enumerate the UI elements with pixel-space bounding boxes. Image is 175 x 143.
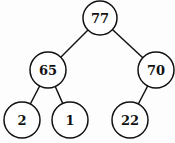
node-77: 77 (83, 1, 117, 35)
node-1: 1 (52, 102, 88, 138)
node-65: 65 (30, 52, 66, 88)
node-label: 65 (39, 63, 57, 78)
tree-diagram: 77 65 70 2 1 22 (0, 0, 175, 143)
node-70: 70 (138, 52, 174, 88)
node-label: 77 (91, 11, 109, 26)
node-22: 22 (112, 102, 148, 138)
node-2: 2 (4, 102, 40, 138)
tree-svg: 77 65 70 2 1 22 (0, 0, 175, 143)
node-label: 70 (147, 63, 165, 78)
node-label: 1 (65, 113, 74, 128)
node-label: 22 (121, 113, 139, 128)
node-label: 2 (17, 113, 26, 128)
